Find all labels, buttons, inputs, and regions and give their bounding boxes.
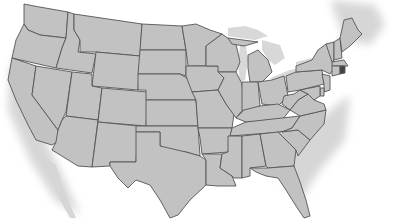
state-wy[interactable] (92, 52, 140, 90)
lake-superior (228, 26, 268, 40)
state-co[interactable] (98, 88, 148, 126)
state-ma[interactable] (332, 60, 348, 66)
state-sd[interactable] (138, 50, 186, 76)
state-mt[interactable] (74, 14, 142, 56)
state-ar[interactable] (198, 128, 232, 154)
us-map (0, 0, 401, 221)
state-nd[interactable] (140, 24, 186, 50)
state-nm[interactable] (92, 122, 138, 167)
us-states-svg (0, 0, 401, 221)
state-de[interactable] (320, 88, 324, 96)
state-ri[interactable] (340, 66, 345, 74)
state-ks[interactable] (146, 100, 198, 126)
state-ct[interactable] (332, 66, 340, 76)
